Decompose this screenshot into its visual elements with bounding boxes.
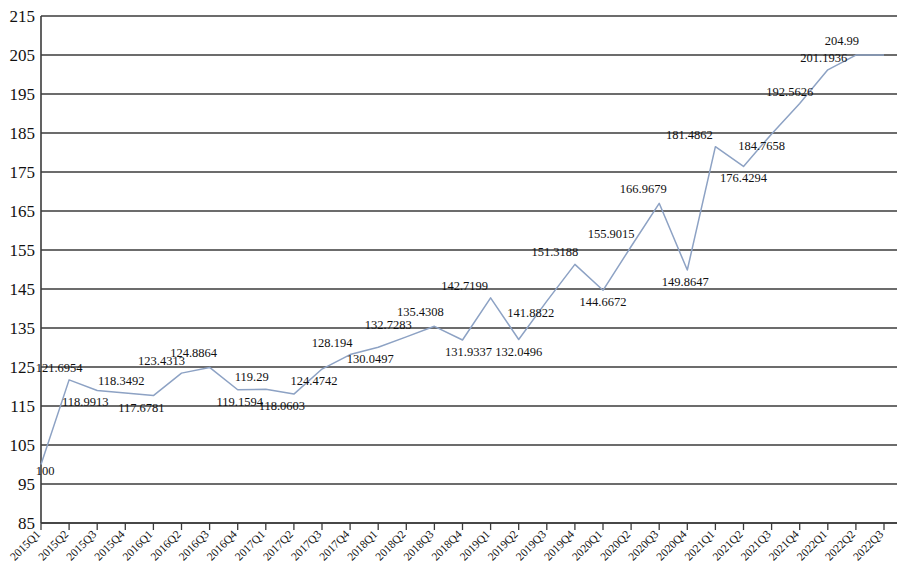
data-point-label: 119.1594 — [216, 395, 263, 409]
x-tick-label: 2015Q2 — [36, 528, 71, 563]
x-tick-label: 2022Q2 — [823, 528, 858, 563]
x-tick-label: 2017Q2 — [261, 528, 296, 563]
x-tick-label: 2019Q3 — [514, 528, 549, 563]
data-point-labels: 100121.6954118.9913118.3492117.6781123.4… — [36, 34, 859, 477]
data-point-label: 118.3492 — [98, 374, 144, 388]
x-tick-label: 2021Q2 — [710, 528, 745, 563]
data-point-label: 176.4294 — [720, 171, 768, 185]
x-tick-label: 2017Q3 — [289, 528, 324, 563]
data-point-label: 135.4308 — [397, 305, 444, 319]
y-tick-label: 195 — [10, 85, 36, 104]
x-tick-label: 2020Q3 — [626, 528, 661, 563]
y-tick-label: 145 — [10, 280, 36, 299]
chart-canvas: 2152051951851751651551451351251151059585… — [0, 0, 904, 570]
data-point-label: 192.5626 — [766, 85, 813, 99]
data-point-label: 118.9913 — [62, 395, 108, 409]
y-tick-label: 95 — [18, 475, 35, 494]
x-tick-label: 2016Q4 — [204, 528, 239, 563]
x-tick-label: 2022Q3 — [851, 528, 886, 563]
x-tick-label: 2019Q2 — [485, 528, 520, 563]
x-tick-label: 2019Q4 — [542, 528, 577, 563]
data-point-label: 131.9337 — [445, 345, 492, 359]
y-tick-label: 155 — [10, 241, 36, 260]
data-point-label: 155.9015 — [588, 227, 635, 241]
x-tick-label: 2017Q4 — [317, 528, 352, 563]
x-tick-label: 2015Q3 — [64, 528, 99, 563]
y-tick-label: 165 — [10, 202, 36, 221]
x-tick-label: 2022Q1 — [795, 528, 830, 563]
y-tick-label: 135 — [10, 319, 36, 338]
data-point-label: 144.6672 — [580, 295, 627, 309]
data-point-label: 121.6954 — [36, 361, 84, 375]
x-tick-label: 2020Q2 — [598, 528, 633, 563]
data-point-label: 204.99 — [825, 34, 859, 48]
data-point-label: 128.194 — [312, 336, 353, 350]
data-point-label: 119.29 — [235, 370, 269, 384]
x-tick-label: 2021Q3 — [738, 528, 773, 563]
x-tick-labels: 2015Q12015Q22015Q32015Q42016Q12016Q22016… — [8, 528, 886, 563]
data-point-label: 149.8647 — [662, 275, 709, 289]
x-tick-label: 2017Q1 — [233, 528, 268, 563]
y-tick-label: 115 — [10, 397, 35, 416]
y-tick-labels: 2152051951851751651551451351251151059585 — [10, 7, 36, 533]
y-tick-label: 175 — [10, 163, 36, 182]
data-point-label: 124.8864 — [170, 346, 218, 360]
x-tick-label: 2016Q1 — [120, 528, 155, 563]
data-series-line — [41, 55, 884, 464]
y-tick-label: 125 — [10, 358, 36, 377]
data-point-label: 151.3188 — [531, 245, 578, 259]
line-chart: 2152051951851751651551451351251151059585… — [0, 0, 904, 570]
data-point-label: 201.1936 — [800, 51, 847, 65]
x-tick-label: 2018Q4 — [429, 528, 464, 563]
data-point-label: 132.7283 — [365, 318, 412, 332]
data-point-label: 124.4742 — [291, 374, 338, 388]
data-point-label: 141.8822 — [507, 306, 554, 320]
x-tick-label: 2018Q2 — [373, 528, 408, 563]
data-point-label: 130.0497 — [347, 352, 394, 366]
data-point-label: 184.7658 — [738, 139, 785, 153]
x-tick-label: 2021Q1 — [682, 528, 717, 563]
data-point-label: 100 — [36, 464, 55, 478]
x-tick-label: 2018Q3 — [401, 528, 436, 563]
data-point-label: 142.7199 — [441, 279, 488, 293]
x-tick-label: 2018Q1 — [345, 528, 380, 563]
y-tick-label: 215 — [10, 7, 36, 26]
x-tick-marks — [41, 523, 884, 530]
x-tick-label: 2016Q2 — [148, 528, 183, 563]
x-tick-label: 2020Q4 — [654, 528, 689, 563]
data-point-label: 166.9679 — [620, 182, 667, 196]
x-tick-label: 2016Q3 — [176, 528, 211, 563]
x-tick-label: 2020Q1 — [570, 528, 605, 563]
x-tick-label: 2019Q1 — [457, 528, 492, 563]
data-point-label: 117.6781 — [118, 401, 164, 415]
x-tick-label: 2021Q4 — [766, 528, 801, 563]
y-tick-label: 205 — [10, 46, 36, 65]
y-tick-label: 185 — [10, 124, 36, 143]
x-tick-label: 2015Q4 — [92, 528, 127, 563]
y-tick-label: 105 — [10, 436, 36, 455]
data-point-label: 118.0603 — [259, 399, 305, 413]
data-point-label: 132.0496 — [495, 345, 542, 359]
data-point-label: 181.4862 — [666, 128, 713, 142]
series-line — [41, 55, 884, 464]
